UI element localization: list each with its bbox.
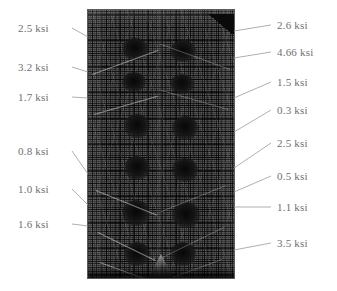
leader-line-left-4 — [72, 151, 88, 174]
rebar-hole — [122, 72, 146, 92]
stress-callout-left-4: 0.8 ksi — [18, 145, 49, 157]
leader-line-right-6 — [234, 176, 271, 192]
stress-callout-left-3: 1.7 ksi — [18, 91, 49, 103]
leader-line-left-2 — [72, 67, 88, 72]
mesh-band-1 — [220, 10, 234, 278]
figure-container: 2.5 ksi3.2 ksi1.7 ksi0.8 ksi1.0 ksi1.6 k… — [0, 0, 337, 291]
rebar-hole — [172, 158, 198, 182]
stress-callout-right-1: 2.6 ksi — [277, 19, 308, 31]
leader-line-right-4 — [234, 110, 271, 132]
leader-line-left-6 — [72, 224, 88, 226]
rebar-hole — [124, 114, 150, 138]
leader-line-right-2 — [234, 52, 271, 58]
leader-line-left-1 — [72, 28, 88, 37]
stress-callout-right-2: 4.66 ksi — [277, 46, 313, 58]
finite-element-mesh — [88, 10, 234, 278]
stress-callout-left-1: 2.5 ksi — [18, 22, 49, 34]
stress-callout-right-8: 3.5 ksi — [277, 237, 308, 249]
leader-line-left-5 — [72, 189, 88, 205]
stress-callout-right-3: 1.5 ksi — [277, 76, 308, 88]
stress-callout-left-2: 3.2 ksi — [18, 61, 49, 73]
leader-line-right-3 — [234, 82, 271, 98]
stress-callout-left-5: 1.0 ksi — [18, 183, 49, 195]
rebar-hole — [122, 200, 150, 226]
leader-line-right-8 — [234, 243, 271, 250]
rebar-hole — [170, 74, 194, 94]
stress-callout-right-7: 1.1 ksi — [277, 201, 308, 213]
rebar-hole — [124, 156, 150, 180]
stress-callout-left-6: 1.6 ksi — [18, 218, 49, 230]
leader-line-right-5 — [234, 143, 271, 168]
stress-callout-right-5: 2.5 ksi — [277, 137, 308, 149]
stress-callout-right-6: 0.5 ksi — [277, 170, 308, 182]
stress-callout-right-4: 0.3 ksi — [277, 104, 308, 116]
rebar-hole — [172, 116, 198, 140]
leader-line-right-1 — [234, 25, 271, 31]
leader-line-left-3 — [72, 97, 88, 98]
mesh-band-0 — [88, 10, 102, 278]
corner-wedge-icon — [204, 14, 234, 34]
rebar-hole — [122, 38, 148, 60]
